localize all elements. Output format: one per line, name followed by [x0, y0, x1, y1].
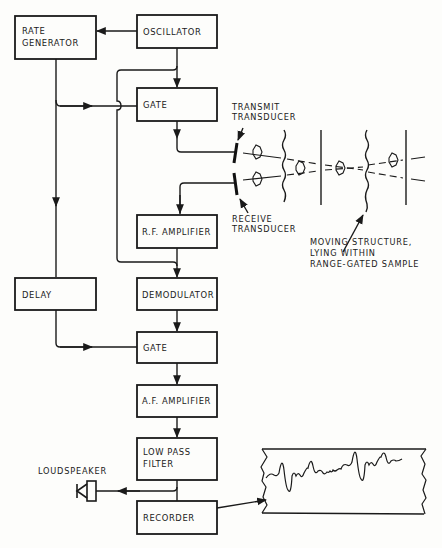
- rf-amplifier-block: R.F. AMPLIFIER: [137, 215, 217, 248]
- delay-label: DELAY: [22, 290, 52, 300]
- moving-structure-label-2: LYING WITHIN: [310, 248, 376, 258]
- transmit-pointer: [238, 128, 243, 140]
- moving-structure-label-1: MOVING STRUCTURE,: [310, 237, 412, 247]
- demodulator-label: DEMODULATOR: [142, 290, 214, 300]
- recorder-chart-strip: [261, 449, 426, 514]
- recorder-to-chart-arrow: [217, 500, 266, 508]
- transducer-to-rf-line: [180, 183, 236, 214]
- rate-generator-label-2: GENERATOR: [22, 38, 79, 48]
- delay-to-gate2-line: [56, 310, 137, 347]
- gate-2-label: GATE: [143, 343, 167, 353]
- ultrasound-beams: [243, 145, 425, 186]
- doppler-block-diagram: RATE GENERATOR OSCILLATOR GATE R.F. AMPL…: [0, 0, 442, 548]
- gate-to-transducer-line: [177, 138, 236, 152]
- transmit-label-2: TRANSDUCER: [231, 112, 296, 122]
- rate-generator-block: RATE GENERATOR: [15, 16, 96, 59]
- recorder-label: RECORDER: [143, 513, 195, 523]
- af-amplifier-label: A.F. AMPLIFIER: [142, 396, 211, 406]
- transmit-transducer: [234, 143, 237, 163]
- delay-block: DELAY: [15, 278, 96, 310]
- loudspeaker-label: LOUDSPEAKER: [38, 466, 107, 476]
- receive-pointer: [240, 199, 248, 213]
- low-pass-filter-label-1: LOW PASS: [143, 447, 191, 457]
- moving-structure-label-3: RANGE-GATED SAMPLE: [310, 259, 419, 269]
- transmit-label-1: TRANSMIT: [231, 102, 280, 112]
- moving-structure-wavy: [366, 130, 369, 212]
- rate-generator-label-1: RATE: [22, 26, 45, 36]
- af-amplifier-block: A.F. AMPLIFIER: [137, 385, 217, 417]
- rate-to-gate-line: [56, 59, 137, 106]
- oscillator-label: OSCILLATOR: [143, 27, 201, 37]
- low-pass-filter-block: LOW PASS RECORDER FILTER: [137, 438, 217, 480]
- receive-label-2: TRANSDUCER: [231, 224, 296, 234]
- loudspeaker-icon: [77, 481, 96, 501]
- tissue-boundary-wavy-1: [283, 130, 286, 202]
- recorder-block: RECORDER: [137, 501, 217, 534]
- gate-1-block: GATE: [137, 88, 217, 121]
- gate-1-label: GATE: [143, 100, 167, 110]
- receive-label-1: RECEIVE: [232, 214, 273, 224]
- oscillator-block: OSCILLATOR: [137, 15, 217, 48]
- receive-transducer: [234, 173, 237, 195]
- low-pass-filter-label-2: FILTER: [143, 459, 174, 469]
- gate-2-block: GATE: [137, 332, 217, 363]
- rf-amplifier-label: R.F. AMPLIFIER: [142, 227, 211, 237]
- demodulator-block: DEMODULATOR: [137, 278, 217, 310]
